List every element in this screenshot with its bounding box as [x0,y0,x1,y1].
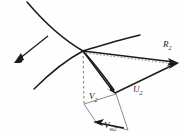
upper-blade-curve-right [83,35,140,51]
flow-direction-arrow [14,36,48,63]
vector-U2 [115,63,179,93]
label-V2-subscript: 2 [95,97,98,103]
label-R2: R2 [162,39,172,51]
velocity-triangle-figure: R2 U2 V2 Vw2 [0,0,186,135]
vector-R2 [83,51,179,66]
construction-diagonal [86,53,175,64]
lower-blade-curve [34,51,83,89]
label-Vw2-subscript: w2 [110,126,117,132]
upper-blade-curve [27,2,83,51]
axial-reference-line [83,51,84,104]
label-U2: U2 [133,84,143,96]
label-U2-subscript: 2 [140,90,143,96]
label-R2-subscript: 2 [169,45,172,51]
label-Vw2: Vw2 [104,120,117,132]
vector-V2 [83,51,117,95]
diagram-canvas: R2 U2 V2 Vw2 [0,0,186,135]
